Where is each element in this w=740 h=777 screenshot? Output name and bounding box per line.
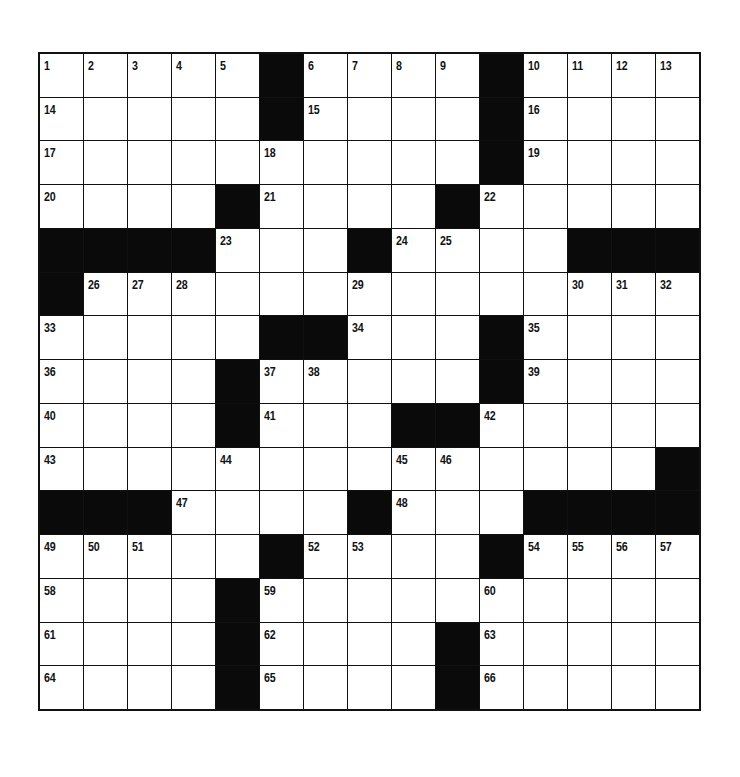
grid-cell[interactable] [568,316,611,359]
grid-cell[interactable]: 14 [40,98,83,141]
grid-cell[interactable] [128,623,171,666]
grid-cell[interactable] [392,316,435,359]
grid-cell[interactable] [128,98,171,141]
grid-cell[interactable] [128,579,171,622]
grid-cell[interactable] [172,623,215,666]
grid-cell[interactable]: 8 [392,54,435,97]
grid-cell[interactable] [260,491,303,534]
grid-cell[interactable] [128,316,171,359]
grid-cell[interactable]: 26 [84,273,127,316]
grid-cell[interactable] [348,579,391,622]
grid-cell[interactable] [612,579,655,622]
grid-cell[interactable] [216,316,259,359]
grid-cell[interactable] [568,666,611,709]
grid-cell[interactable]: 42 [480,404,523,447]
grid-cell[interactable] [568,623,611,666]
grid-cell[interactable]: 27 [128,273,171,316]
grid-cell[interactable] [84,666,127,709]
grid-cell[interactable] [304,273,347,316]
grid-cell[interactable] [524,273,567,316]
grid-cell[interactable]: 19 [524,141,567,184]
grid-cell[interactable] [172,185,215,228]
grid-cell[interactable] [612,98,655,141]
grid-cell[interactable]: 64 [40,666,83,709]
grid-cell[interactable] [172,98,215,141]
grid-cell[interactable]: 53 [348,535,391,578]
grid-cell[interactable]: 60 [480,579,523,622]
grid-cell[interactable]: 49 [40,535,83,578]
grid-cell[interactable]: 57 [656,535,699,578]
grid-cell[interactable] [612,185,655,228]
grid-cell[interactable] [656,360,699,403]
grid-cell[interactable] [392,141,435,184]
grid-cell[interactable]: 24 [392,229,435,272]
grid-cell[interactable]: 62 [260,623,303,666]
grid-cell[interactable] [480,273,523,316]
grid-cell[interactable] [216,141,259,184]
grid-cell[interactable] [656,666,699,709]
grid-cell[interactable] [128,141,171,184]
grid-cell[interactable]: 1 [40,54,83,97]
grid-cell[interactable] [216,535,259,578]
grid-cell[interactable]: 28 [172,273,215,316]
grid-cell[interactable] [304,185,347,228]
grid-cell[interactable] [568,579,611,622]
grid-cell[interactable]: 51 [128,535,171,578]
grid-cell[interactable]: 54 [524,535,567,578]
grid-cell[interactable] [172,448,215,491]
grid-cell[interactable] [392,535,435,578]
grid-cell[interactable] [84,141,127,184]
grid-cell[interactable] [436,316,479,359]
grid-cell[interactable]: 3 [128,54,171,97]
grid-cell[interactable] [304,448,347,491]
grid-cell[interactable] [392,98,435,141]
grid-cell[interactable]: 13 [656,54,699,97]
grid-cell[interactable]: 22 [480,185,523,228]
grid-cell[interactable] [128,360,171,403]
grid-cell[interactable] [260,273,303,316]
grid-cell[interactable] [480,491,523,534]
grid-cell[interactable] [524,185,567,228]
grid-cell[interactable]: 34 [348,316,391,359]
grid-cell[interactable] [568,185,611,228]
grid-cell[interactable] [392,623,435,666]
grid-cell[interactable] [612,623,655,666]
grid-cell[interactable] [480,229,523,272]
grid-cell[interactable]: 38 [304,360,347,403]
grid-cell[interactable]: 35 [524,316,567,359]
grid-cell[interactable]: 23 [216,229,259,272]
grid-cell[interactable] [172,579,215,622]
grid-cell[interactable]: 4 [172,54,215,97]
grid-cell[interactable] [656,98,699,141]
grid-cell[interactable]: 65 [260,666,303,709]
grid-cell[interactable] [304,141,347,184]
grid-cell[interactable] [304,666,347,709]
grid-cell[interactable] [348,98,391,141]
grid-cell[interactable] [568,448,611,491]
grid-cell[interactable]: 36 [40,360,83,403]
grid-cell[interactable] [172,141,215,184]
grid-cell[interactable] [128,448,171,491]
grid-cell[interactable]: 56 [612,535,655,578]
grid-cell[interactable] [304,229,347,272]
grid-cell[interactable] [392,185,435,228]
grid-cell[interactable]: 16 [524,98,567,141]
grid-cell[interactable]: 58 [40,579,83,622]
grid-cell[interactable]: 63 [480,623,523,666]
grid-cell[interactable] [612,448,655,491]
grid-cell[interactable] [568,98,611,141]
grid-cell[interactable] [392,666,435,709]
grid-cell[interactable]: 61 [40,623,83,666]
grid-cell[interactable]: 17 [40,141,83,184]
grid-cell[interactable] [304,623,347,666]
grid-cell[interactable] [524,666,567,709]
grid-cell[interactable]: 50 [84,535,127,578]
grid-cell[interactable]: 25 [436,229,479,272]
grid-cell[interactable] [436,141,479,184]
grid-cell[interactable] [524,404,567,447]
grid-cell[interactable]: 44 [216,448,259,491]
grid-cell[interactable] [172,535,215,578]
grid-cell[interactable]: 20 [40,185,83,228]
grid-cell[interactable] [172,666,215,709]
grid-cell[interactable] [392,579,435,622]
